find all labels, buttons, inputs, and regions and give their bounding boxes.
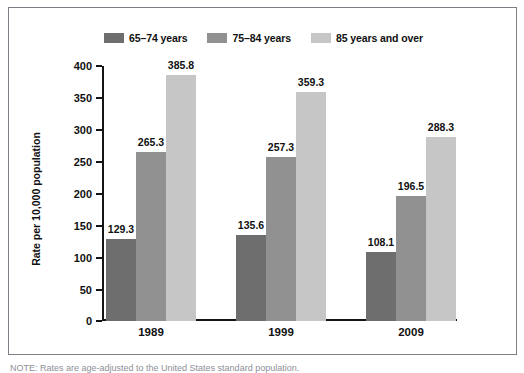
chart-frame: 65–74 years 75–84 years 85 years and ove… <box>8 7 517 355</box>
x-axis-label-1999: 1999 <box>268 326 294 338</box>
bar-1999-65-74[interactable] <box>236 235 266 321</box>
bar-value-1989-85-over: 385.8 <box>168 59 194 71</box>
bar-value-1989-75-84: 265.3 <box>138 136 164 148</box>
bar-value-1999-85-over: 359.3 <box>298 76 324 88</box>
bar-value-2009-85-over: 288.3 <box>428 121 454 133</box>
plot-area: Rate per 10,000 population 400 350 300 2… <box>9 8 518 356</box>
bar-2009-85-over[interactable] <box>426 137 456 321</box>
x-axis-label-2009: 2009 <box>398 326 424 338</box>
bar-1989-75-84[interactable] <box>136 152 166 321</box>
bar-1989-85-over[interactable] <box>166 75 196 321</box>
bar-1999-75-84[interactable] <box>266 157 296 321</box>
bar-1989-65-74[interactable] <box>106 239 136 321</box>
bars-layer: 129.3 265.3 385.8 135.6 257.3 359.3 108.… <box>9 8 518 356</box>
x-axis-label-1989: 1989 <box>138 326 164 338</box>
bar-1999-85-over[interactable] <box>296 92 326 321</box>
bar-2009-65-74[interactable] <box>366 252 396 321</box>
bar-value-1989-65-74: 129.3 <box>108 223 134 235</box>
figure-caption: NOTE: Rates are age-adjusted to the Unit… <box>10 363 510 373</box>
bar-2009-75-84[interactable] <box>396 196 426 321</box>
bar-value-1999-65-74: 135.6 <box>238 219 264 231</box>
bar-value-2009-75-84: 196.5 <box>398 180 424 192</box>
bar-value-2009-65-74: 108.1 <box>368 236 394 248</box>
bar-value-1999-75-84: 257.3 <box>268 141 294 153</box>
